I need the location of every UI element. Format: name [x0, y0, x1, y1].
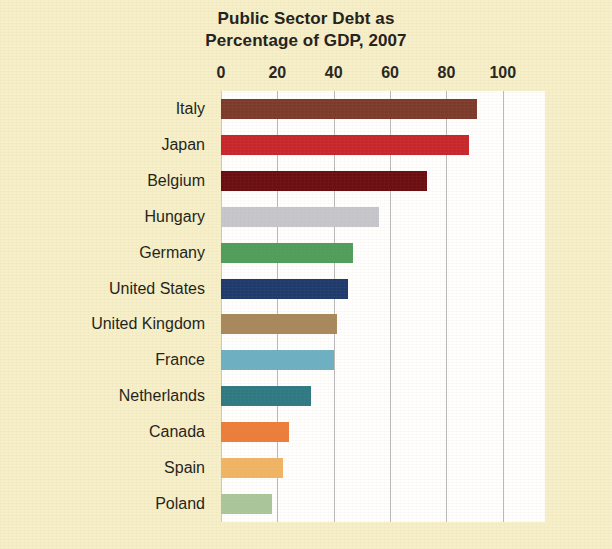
- bar-row: [221, 99, 545, 119]
- x-tick-label-80: 80: [437, 64, 455, 82]
- bar-row: [221, 279, 545, 299]
- bar-row: [221, 350, 545, 370]
- chart-title-line-1: Public Sector Debt as: [0, 8, 612, 30]
- category-label-italy: Italy: [0, 99, 213, 119]
- category-label-france: France: [0, 350, 213, 370]
- bar-japan: [221, 135, 469, 155]
- bar-row: [221, 494, 545, 514]
- bar-chart-figure: Public Sector Debt as Percentage of GDP,…: [0, 0, 612, 549]
- bar-germany: [221, 243, 353, 263]
- bar-row: [221, 422, 545, 442]
- x-tick-label-0: 0: [217, 64, 226, 82]
- category-label-united-states: United States: [0, 279, 213, 299]
- bar-hungary: [221, 207, 379, 227]
- bar-united-kingdom: [221, 314, 337, 334]
- chart-title-line-2: Percentage of GDP, 2007: [0, 30, 612, 52]
- x-tick-label-60: 60: [381, 64, 399, 82]
- category-label-hungary: Hungary: [0, 207, 213, 227]
- category-label-netherlands: Netherlands: [0, 386, 213, 406]
- x-axis-tick-labels: 020406080100: [221, 64, 545, 88]
- x-tick-label-40: 40: [325, 64, 343, 82]
- bar-italy: [221, 99, 477, 119]
- bar-row: [221, 314, 545, 334]
- bars-layer: [221, 91, 545, 522]
- category-label-germany: Germany: [0, 243, 213, 263]
- bar-poland: [221, 494, 272, 514]
- bar-row: [221, 171, 545, 191]
- category-label-spain: Spain: [0, 458, 213, 478]
- category-label-united-kingdom: United Kingdom: [0, 314, 213, 334]
- bar-france: [221, 350, 334, 370]
- bar-row: [221, 243, 545, 263]
- bar-row: [221, 386, 545, 406]
- category-axis-labels: ItalyJapanBelgiumHungaryGermanyUnited St…: [0, 91, 213, 522]
- bar-row: [221, 207, 545, 227]
- bar-row: [221, 458, 545, 478]
- bar-canada: [221, 422, 289, 442]
- x-tick-label-100: 100: [489, 64, 516, 82]
- category-label-japan: Japan: [0, 135, 213, 155]
- bar-united-states: [221, 279, 348, 299]
- chart-title: Public Sector Debt as Percentage of GDP,…: [0, 8, 612, 52]
- category-label-canada: Canada: [0, 422, 213, 442]
- plot-area: [221, 91, 545, 522]
- bar-belgium: [221, 171, 427, 191]
- category-label-poland: Poland: [0, 494, 213, 514]
- category-label-belgium: Belgium: [0, 171, 213, 191]
- bar-row: [221, 135, 545, 155]
- x-tick-label-20: 20: [268, 64, 286, 82]
- bar-netherlands: [221, 386, 311, 406]
- bar-spain: [221, 458, 283, 478]
